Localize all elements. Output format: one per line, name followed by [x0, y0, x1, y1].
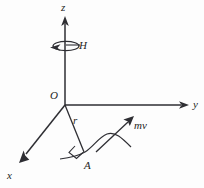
radius-vector [65, 105, 84, 152]
momentum-vector [96, 116, 134, 152]
diagram-canvas [0, 0, 204, 188]
point-a-label: A [84, 160, 91, 171]
momentum-line [96, 122, 128, 152]
z-axis [61, 16, 69, 106]
radius-line [65, 105, 84, 152]
origin-label: O [50, 90, 58, 101]
x-axis [19, 105, 65, 163]
y-axis-label: y [193, 99, 198, 110]
x-axis-label: x [7, 170, 12, 181]
field-label: H [79, 40, 87, 51]
trajectory-curve [60, 133, 131, 159]
radius-label: r [73, 115, 77, 126]
x-axis-line [26, 105, 65, 154]
precession-arrowhead [50, 44, 61, 51]
momentum-label: mv [134, 120, 147, 131]
y-axis [65, 101, 189, 109]
trajectory-path [60, 133, 131, 159]
z-axis-label: z [61, 2, 65, 13]
physics-diagram: z y x O H r A mv [0, 0, 204, 188]
